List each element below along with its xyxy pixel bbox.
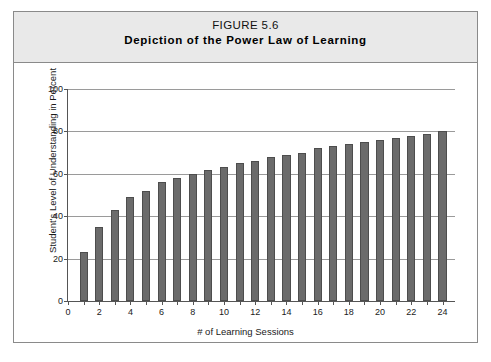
x-tick-label: 8 <box>190 307 195 317</box>
x-tick-mark <box>193 301 194 305</box>
x-tick-mark <box>302 301 303 305</box>
chart-region: Student's Level of Understanding in Perc… <box>14 63 477 342</box>
gridline <box>68 131 455 132</box>
y-tick-label: 40 <box>53 211 63 221</box>
y-tick-label: 0 <box>58 296 63 306</box>
x-tick-label: 6 <box>159 307 164 317</box>
bar <box>220 167 228 301</box>
x-tick-label: 20 <box>375 307 385 317</box>
bar <box>314 148 322 301</box>
x-tick-mark <box>396 301 397 305</box>
x-tick-label: 16 <box>313 307 323 317</box>
bar <box>251 161 259 301</box>
x-tick-mark <box>162 301 163 305</box>
x-tick-mark <box>115 301 116 305</box>
x-tick-label: 4 <box>128 307 133 317</box>
figure-frame: FIGURE 5.6 Depiction of the Power Law of… <box>13 11 478 343</box>
bar <box>376 140 384 301</box>
y-tick-mark <box>64 131 68 132</box>
x-axis-title: # of Learning Sessions <box>14 326 477 337</box>
y-tick-label: 100 <box>48 84 63 94</box>
y-tick-label: 80 <box>53 126 63 136</box>
x-tick-mark <box>318 301 319 305</box>
x-tick-mark <box>427 301 428 305</box>
bar <box>345 144 353 301</box>
bar <box>204 170 212 301</box>
y-tick-mark <box>64 89 68 90</box>
x-tick-mark <box>364 301 365 305</box>
y-tick-mark <box>64 174 68 175</box>
figure-header: FIGURE 5.6 Depiction of the Power Law of… <box>14 12 477 63</box>
x-tick-label: 0 <box>65 307 70 317</box>
bar <box>236 163 244 301</box>
y-tick-label: 60 <box>53 169 63 179</box>
x-tick-label: 12 <box>250 307 260 317</box>
x-tick-mark <box>68 301 69 305</box>
x-tick-mark <box>271 301 272 305</box>
x-tick-label: 24 <box>438 307 448 317</box>
bar <box>423 134 431 301</box>
bar <box>298 153 306 301</box>
x-tick-mark <box>130 301 131 305</box>
bar <box>80 252 88 301</box>
x-tick-mark <box>177 301 178 305</box>
x-tick-mark <box>84 301 85 305</box>
x-tick-mark <box>286 301 287 305</box>
bar <box>111 210 119 301</box>
x-tick-mark <box>224 301 225 305</box>
x-tick-mark <box>443 301 444 305</box>
x-tick-mark <box>349 301 350 305</box>
x-tick-mark <box>255 301 256 305</box>
bar <box>142 191 150 301</box>
bar <box>329 146 337 301</box>
x-tick-mark <box>333 301 334 305</box>
plot-area: 020406080100 024681012141618202224 <box>67 89 455 302</box>
y-tick-label: 20 <box>53 254 63 264</box>
x-tick-label: 10 <box>219 307 229 317</box>
figure-caption: Depiction of the Power Law of Learning <box>14 31 477 46</box>
bar <box>407 136 415 301</box>
x-tick-label: 2 <box>97 307 102 317</box>
bar <box>158 182 166 301</box>
bar <box>189 174 197 301</box>
x-tick-mark <box>99 301 100 305</box>
bar <box>438 131 446 301</box>
bar <box>267 157 275 301</box>
bar <box>392 138 400 301</box>
x-tick-mark <box>411 301 412 305</box>
x-tick-label: 14 <box>281 307 291 317</box>
x-tick-mark <box>380 301 381 305</box>
figure-number: FIGURE 5.6 <box>14 12 477 31</box>
bar <box>360 142 368 301</box>
x-tick-label: 18 <box>344 307 354 317</box>
bar <box>126 197 134 301</box>
y-tick-mark <box>64 259 68 260</box>
bar <box>282 155 290 301</box>
x-tick-mark <box>240 301 241 305</box>
x-tick-mark <box>146 301 147 305</box>
bar <box>173 178 181 301</box>
x-tick-mark <box>208 301 209 305</box>
gridline <box>68 89 455 90</box>
x-tick-label: 22 <box>406 307 416 317</box>
y-tick-mark <box>64 216 68 217</box>
bar <box>95 227 103 301</box>
